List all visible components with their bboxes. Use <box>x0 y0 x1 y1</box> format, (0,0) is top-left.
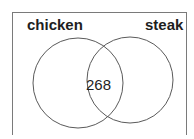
set-label-steak: steak <box>145 17 183 32</box>
set-label-chicken: chicken <box>27 17 83 32</box>
intersection-count: 268 <box>86 77 111 92</box>
